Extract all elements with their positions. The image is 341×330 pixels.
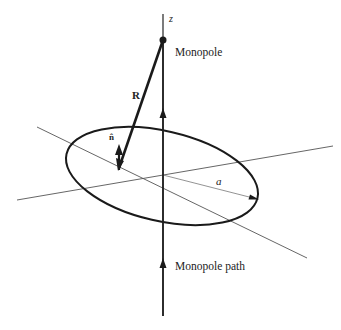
monopole-dot: [160, 37, 167, 44]
path-direction-arrow-lower-icon: [160, 258, 167, 268]
monopole-path-label: Monopole path: [175, 261, 245, 273]
normal-arrowhead-icon: [115, 144, 123, 155]
radius-label: a: [216, 176, 222, 187]
y-axis-line: [17, 146, 333, 200]
current-loop: [56, 110, 267, 242]
R-vector-label: R: [132, 90, 140, 101]
path-direction-arrow-icon: [160, 108, 167, 118]
x-axis-line: [37, 127, 307, 258]
position-vector-R: [119, 40, 163, 168]
monopole-loop-diagram: [0, 0, 341, 330]
z-axis-label: z: [169, 14, 173, 24]
n-hat-label: n̂: [109, 133, 114, 142]
monopole-label: Monopole: [175, 47, 222, 59]
